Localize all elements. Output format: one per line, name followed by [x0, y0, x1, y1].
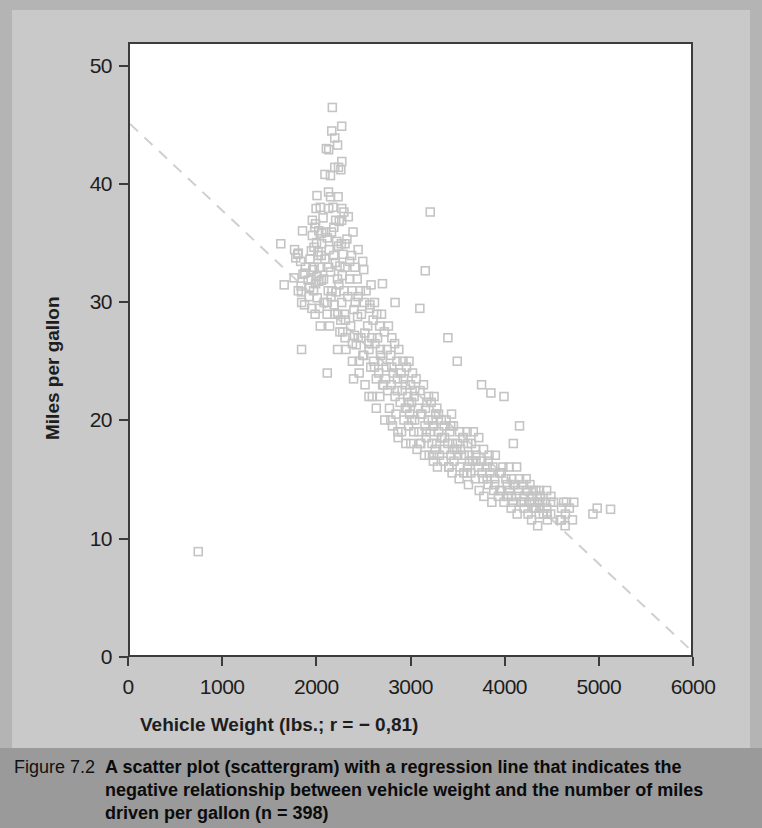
scatter-point — [378, 280, 386, 288]
scatter-point — [391, 299, 399, 307]
y-tick-label: 40 — [66, 172, 112, 196]
scatter-points — [194, 103, 614, 555]
x-tick-label: 6000 — [671, 675, 716, 699]
scatter-point — [299, 227, 307, 235]
x-tick-label: 3000 — [388, 675, 433, 699]
scatter-point — [448, 410, 456, 418]
scatter-point — [416, 304, 424, 312]
scatter-point — [500, 393, 508, 401]
scatter-point — [516, 422, 524, 430]
x-tick-label: 5000 — [576, 675, 621, 699]
scatter-point — [426, 208, 434, 216]
scatter-point — [402, 440, 410, 448]
x-tick-mark — [598, 657, 600, 666]
scatter-point — [453, 357, 461, 365]
y-tick-mark — [119, 419, 128, 421]
scatter-point — [280, 281, 288, 289]
x-tick-mark — [504, 657, 506, 666]
scatter-point — [356, 287, 364, 295]
x-tick-label: 2000 — [294, 675, 339, 699]
scatter-point — [360, 266, 368, 274]
scatter-point — [361, 381, 369, 389]
plot-frame — [128, 42, 693, 657]
x-tick-mark — [127, 657, 129, 666]
y-tick-mark — [119, 538, 128, 540]
scatter-point — [408, 416, 416, 424]
plot-panel: 01020304050 0100020003000400050006000 Ve… — [12, 10, 750, 748]
scatter-point — [378, 310, 386, 318]
scatter-point — [326, 322, 334, 330]
scatter-point — [372, 404, 380, 412]
scatter-point — [336, 328, 344, 336]
y-tick-label: 10 — [66, 527, 112, 551]
y-tick-mark — [119, 65, 128, 67]
scatter-point — [367, 281, 375, 289]
scatter-point — [560, 498, 568, 506]
x-axis-title: Vehicle Weight (lbs.; r = − 0,81) — [140, 714, 418, 736]
x-tick-label: 0 — [122, 675, 133, 699]
scatter-point — [323, 310, 331, 318]
scatter-point — [334, 193, 342, 201]
figure-number: Figure 7.2 — [14, 756, 95, 779]
x-tick-mark — [692, 657, 694, 666]
scatter-point — [316, 322, 324, 330]
scatter-point — [355, 369, 363, 377]
figure-root: 01020304050 0100020003000400050006000 Ve… — [0, 0, 762, 828]
scatter-point — [351, 263, 359, 271]
scatter-point — [359, 257, 367, 265]
y-tick-label: 20 — [66, 408, 112, 432]
x-tick-label: 4000 — [482, 675, 527, 699]
scatter-point — [410, 428, 418, 436]
y-tick-mark — [119, 183, 128, 185]
scatter-plot-canvas — [130, 44, 691, 655]
scatter-point — [194, 548, 202, 556]
scatter-point — [328, 103, 336, 111]
scatter-point — [298, 346, 306, 354]
scatter-point — [277, 240, 285, 248]
scatter-point — [444, 334, 452, 342]
scatter-point — [513, 463, 521, 471]
scatter-point — [607, 505, 615, 513]
scatter-point — [306, 255, 314, 263]
x-tick-mark — [221, 657, 223, 666]
scatter-point — [421, 267, 429, 275]
scatter-point — [323, 369, 331, 377]
x-tick-mark — [410, 657, 412, 666]
y-axis-title: Miles per gallon — [42, 296, 64, 440]
figure-caption-text: A scatter plot (scattergram) with a regr… — [105, 756, 746, 825]
x-tick-mark — [315, 657, 317, 666]
x-tick-label: 1000 — [200, 675, 245, 699]
scatter-point — [487, 389, 495, 397]
y-tick-label: 50 — [66, 54, 112, 78]
scatter-point — [509, 440, 517, 448]
scatter-point — [313, 192, 321, 200]
scatter-point — [478, 381, 486, 389]
scatter-point — [362, 287, 370, 295]
scatter-point — [334, 346, 342, 354]
figure-caption-band: Figure 7.2 A scatter plot (scattergram) … — [0, 748, 762, 828]
scatter-point — [338, 122, 346, 130]
scatter-point — [339, 328, 347, 336]
y-tick-mark — [119, 301, 128, 303]
scatter-point — [350, 375, 358, 383]
y-tick-label: 0 — [66, 645, 112, 669]
y-tick-label: 30 — [66, 290, 112, 314]
